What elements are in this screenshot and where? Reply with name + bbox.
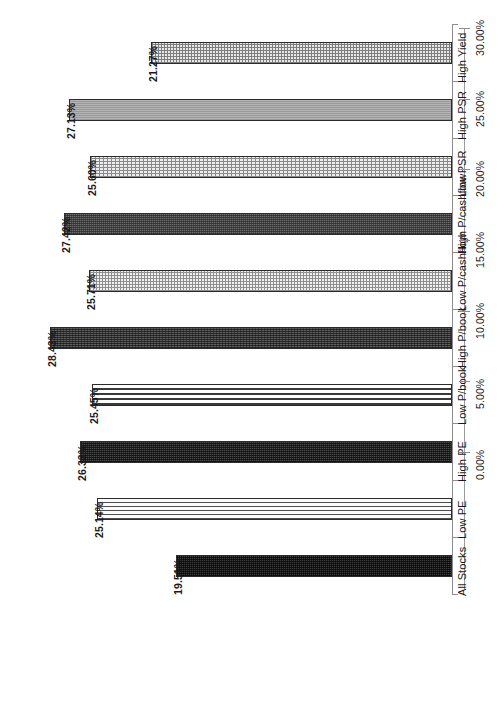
data-label-low-psr: 25.60% — [86, 160, 98, 196]
value-tick-label-1500: 15.00% — [474, 232, 486, 268]
value-tick-label-000: 0.00% — [474, 450, 486, 480]
data-label-high-p-cashflow: 27.42% — [60, 217, 72, 253]
plot-area: 21.27%27.13%25.60%27.42%25.71%28.43%25.4… — [0, 0, 504, 708]
category-tick — [452, 252, 458, 253]
bar-high-p-cashflow — [64, 213, 452, 235]
data-label-high-yield: 21.27% — [147, 46, 159, 82]
bar-high-p-book — [50, 327, 452, 349]
chart-root: 21.27%27.13%25.60%27.42%25.71%28.43%25.4… — [0, 0, 504, 708]
value-tick-mark — [459, 169, 470, 170]
value-tick-label-2500: 25.00% — [474, 91, 486, 127]
value-tick-mark — [459, 240, 470, 241]
bar-high-yield — [151, 42, 452, 64]
category-label-low-pe: Low PE — [456, 500, 468, 539]
value-tick-mark — [459, 99, 470, 100]
value-tick-label-500: 5.00% — [474, 379, 486, 409]
value-tick-label-3000: 30.00% — [474, 20, 486, 56]
category-tick — [452, 423, 458, 424]
value-tick-mark — [459, 311, 470, 312]
category-label-low-p-cashflow: Low P/cashflow — [456, 233, 468, 311]
category-tick — [452, 480, 458, 481]
value-tick-label-1000: 10.00% — [474, 303, 486, 339]
value-tick-mark — [459, 28, 470, 29]
value-tick-mark — [459, 452, 470, 453]
data-label-low-pe: 25.14% — [93, 502, 105, 538]
value-tick-label-2000: 20.00% — [474, 161, 486, 197]
category-label-high-p-book: High P/book — [456, 307, 468, 368]
category-label-all-stocks: All Stocks — [456, 547, 468, 596]
bar-high-psr — [69, 99, 452, 121]
data-label-low-p-cashflow: 25.71% — [85, 274, 97, 310]
category-tick — [452, 537, 458, 538]
category-tick — [452, 138, 458, 139]
category-tick — [452, 594, 458, 595]
bar-low-psr — [90, 156, 452, 178]
category-tick — [452, 81, 458, 82]
category-label-high-pe: High PE — [456, 441, 468, 482]
data-label-high-p-book: 28.43% — [46, 331, 58, 367]
value-tick-mark — [459, 381, 470, 382]
category-tick — [452, 195, 458, 196]
category-label-high-yield: High Yield — [456, 32, 468, 83]
category-tick — [452, 309, 458, 310]
data-label-high-psr: 27.13% — [65, 103, 77, 139]
data-label-all-stocks: 19.51% — [172, 559, 184, 595]
bar-low-pe — [97, 498, 452, 520]
bar-high-pe — [80, 441, 452, 463]
bar-all-stocks — [176, 555, 452, 577]
data-label-low-p-book: 25.45% — [88, 388, 100, 424]
bar-low-p-cashflow — [89, 270, 452, 292]
data-label-high-pe: 26.33% — [76, 445, 88, 481]
category-tick — [452, 24, 458, 25]
category-tick — [452, 366, 458, 367]
bar-low-p-book — [92, 384, 452, 406]
category-label-low-p-book: Low P/book — [456, 367, 468, 425]
